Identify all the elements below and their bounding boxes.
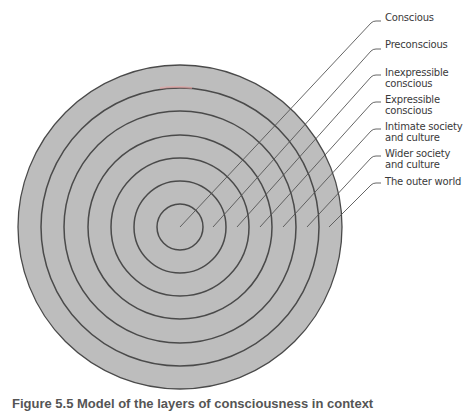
layer-label-line: The outer world [385,176,461,187]
layer-label: The outer world [385,176,461,187]
layer-label-line: conscious [385,105,440,116]
figure-caption: Figure 5.5 Model of the layers of consci… [12,396,373,411]
layer-label-line: Wider society [385,148,450,159]
layer-label: Preconscious [385,39,448,50]
layer-label-line: Preconscious [385,39,448,50]
layer-label-line: and culture [385,159,450,170]
layer-label-line: and culture [385,132,463,143]
layer-label: Expressibleconscious [385,94,440,116]
highlight-mark [160,87,192,88]
layer-label-line: Inexpressible [385,67,448,78]
layer-label: Wider societyand culture [385,148,450,170]
layer-label-line: conscious [385,78,448,89]
layer-label: Conscious [385,12,434,23]
layer-label-line: Expressible [385,94,440,105]
layer-label: Intimate societyand culture [385,121,463,143]
layer-label: Inexpressibleconscious [385,67,448,89]
layer-label-line: Intimate society [385,121,463,132]
layer-label-line: Conscious [385,12,434,23]
